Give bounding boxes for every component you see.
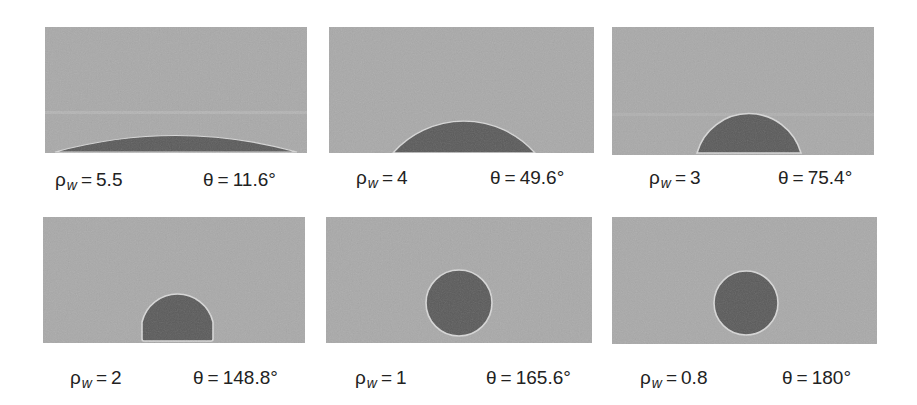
simulation-frame-a	[45, 27, 307, 153]
simulation-frame-f	[612, 217, 877, 344]
droplet-image-f	[612, 217, 877, 344]
droplet-contact-angle-figure: ρw=5.5 θ=11.6°	[0, 0, 917, 405]
rho-label-b: ρw=4	[356, 168, 408, 190]
droplet-image-e	[326, 217, 592, 343]
simulation-frame-e	[326, 217, 592, 343]
rho-label-e: ρw=1	[355, 368, 407, 390]
theta-label-c: θ=75.4°	[778, 168, 852, 187]
theta-label-d: θ=148.8°	[193, 368, 278, 387]
droplet-image-a	[45, 27, 307, 153]
simulation-frame-b	[329, 27, 594, 153]
simulation-frame-c	[612, 27, 874, 155]
droplet-image-c	[612, 27, 874, 155]
theta-label-b: θ=49.6°	[490, 168, 564, 187]
droplet-image-b	[329, 27, 594, 153]
droplet-image-d	[43, 217, 305, 343]
theta-label-e: θ=165.6°	[486, 368, 571, 387]
theta-label-f: θ=180°	[782, 368, 851, 387]
rho-label-d: ρw=2	[70, 368, 122, 390]
rho-label-f: ρw=0.8	[640, 368, 707, 390]
simulation-frame-d	[43, 217, 305, 343]
rho-label-a: ρw=5.5	[55, 170, 122, 192]
theta-label-a: θ=11.6°	[203, 170, 276, 189]
rho-label-c: ρw=3	[649, 168, 701, 190]
